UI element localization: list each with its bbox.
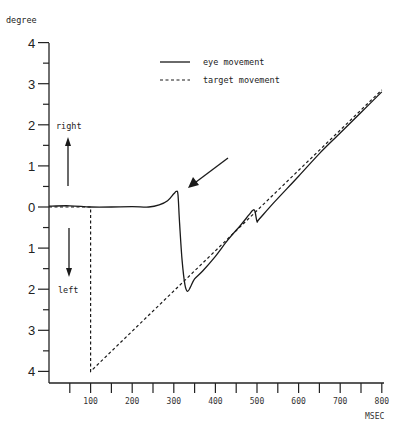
x-axis-label: MSEC <box>365 412 384 421</box>
x-tick-label: 800 <box>375 397 390 406</box>
down-arrow-icon <box>66 228 72 277</box>
eye-movement-line <box>49 92 382 291</box>
right-direction-label: right <box>56 121 82 131</box>
y-tick-label: 4 <box>28 364 35 379</box>
legend-target-label: target movement <box>203 75 280 85</box>
x-tick-label: 500 <box>250 397 265 406</box>
x-tick-label: 200 <box>125 397 140 406</box>
y-tick-label: 2 <box>28 282 35 297</box>
y-tick-label: 4 <box>28 36 35 51</box>
y-tick-label: 3 <box>28 323 35 338</box>
up-arrow-icon <box>65 137 71 186</box>
y-ticks: 432101234 <box>28 36 49 380</box>
y-tick-label: 1 <box>28 159 35 174</box>
x-tick-label: 100 <box>83 397 98 406</box>
x-tick-label: 600 <box>291 397 306 406</box>
left-direction-label: left <box>58 285 78 295</box>
y-tick-label: 0 <box>28 200 35 215</box>
y-tick-label: 2 <box>28 118 35 133</box>
y-axis-label: degree <box>6 15 37 25</box>
x-tick-label: 700 <box>333 397 348 406</box>
y-tick-label: 3 <box>28 77 35 92</box>
legend-eye-label: eye movement <box>203 57 264 67</box>
annotation-arrow-icon <box>188 158 228 188</box>
x-tick-label: 300 <box>167 397 182 406</box>
x-tick-label: 400 <box>208 397 223 406</box>
eye-target-movement-chart: degree MSEC 432101234 100200300400500600… <box>0 0 408 441</box>
x-ticks: 100200300400500600700800 <box>70 383 389 406</box>
y-tick-label: 1 <box>28 241 35 256</box>
legend: eye movement target movement <box>160 57 280 85</box>
target-movement-line <box>49 90 382 372</box>
